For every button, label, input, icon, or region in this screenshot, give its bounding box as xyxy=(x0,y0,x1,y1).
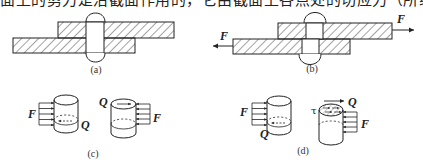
lower-plate xyxy=(233,39,350,54)
rivet-head-bottom xyxy=(86,53,105,62)
rivet-shear-diagram: (a) F F (b) F Q xyxy=(0,0,423,165)
figure-label-a: (a) xyxy=(90,64,101,76)
cylinder-right: Q τ F xyxy=(311,95,369,145)
lower-plate xyxy=(13,38,135,53)
shear-label: Q xyxy=(348,95,357,109)
upper-plate xyxy=(278,23,392,39)
upper-plate xyxy=(58,22,174,38)
rivet-shank-bottom xyxy=(302,39,319,54)
figure-label-b: (b) xyxy=(306,63,318,75)
figure-a: (a) xyxy=(13,13,174,76)
figure-c: F Q Q F (c) xyxy=(27,95,161,160)
shear-label: Q xyxy=(260,127,269,141)
force-label: F xyxy=(152,111,161,125)
rivet-head-top xyxy=(304,13,326,24)
force-label: F xyxy=(239,105,248,119)
force-label: F xyxy=(360,117,369,131)
shear-label: Q xyxy=(99,95,108,109)
cylinder-left: F Q xyxy=(239,96,291,141)
rivet-head-top xyxy=(86,13,105,22)
cylinder-right: Q F xyxy=(99,95,161,138)
force-label-left: F xyxy=(219,29,228,43)
rivet-shank xyxy=(86,22,104,53)
figure-b: F F (b) xyxy=(213,12,414,75)
shear-label: Q xyxy=(81,118,90,132)
stress-symbol: τ xyxy=(311,105,317,116)
cylinder-left: F Q xyxy=(27,95,90,133)
figure-label-c: (c) xyxy=(87,148,98,160)
rivet-shank-top xyxy=(306,23,323,39)
figure-label-d: (d) xyxy=(297,145,309,157)
force-label: F xyxy=(27,107,36,121)
shear-stress-surface xyxy=(319,104,343,116)
figure-d: F Q Q τ F (d) xyxy=(239,95,369,157)
force-label-right: F xyxy=(396,12,405,26)
